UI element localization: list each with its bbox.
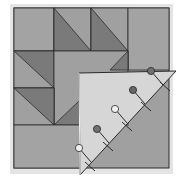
- quilt-block-svg: [0, 0, 184, 182]
- pin-head-icon: [111, 105, 118, 112]
- pin-head-icon: [129, 86, 136, 93]
- pin-head-icon: [75, 144, 82, 151]
- square-r4c1: [14, 125, 80, 168]
- pin-head-icon: [147, 67, 154, 74]
- pin-head-icon: [93, 125, 100, 132]
- square-r1c4: [128, 8, 169, 70]
- quilt-illustration: [0, 0, 184, 182]
- square-r1c1: [14, 8, 54, 51]
